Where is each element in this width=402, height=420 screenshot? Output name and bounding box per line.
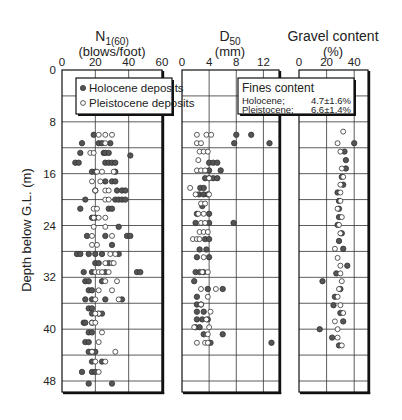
data-point [205, 230, 210, 235]
data-point [203, 168, 208, 173]
data-point [194, 340, 199, 345]
data-point [193, 220, 198, 225]
data-point [115, 279, 120, 284]
data-point [96, 369, 101, 374]
x-tick-label: 60 [156, 56, 169, 68]
data-point [79, 369, 84, 374]
data-point [335, 327, 340, 332]
fines-pleistocene-value: 6.6±1.4% [311, 104, 352, 115]
chart-canvas: N1(60) (blows/foot) D50 (mm) Gravel cont… [0, 0, 402, 420]
data-point [89, 288, 94, 293]
data-point [335, 255, 340, 260]
data-point [197, 237, 202, 242]
x-tick-label: 0 [59, 56, 65, 68]
data-point [123, 188, 128, 193]
data-point [338, 182, 343, 187]
data-point [207, 192, 212, 197]
data-point [337, 222, 342, 227]
panel-frame [62, 70, 162, 392]
legend-holocene-label: Holocene deposits [89, 82, 184, 94]
data-point [76, 160, 81, 165]
data-point [96, 215, 101, 220]
panel-shadow-bottom [300, 392, 370, 394]
data-point [138, 269, 143, 274]
legend-pleistocene-label: Pleistocene deposits [89, 97, 195, 109]
data-point [86, 251, 91, 256]
data-point [116, 297, 121, 302]
data-point [201, 255, 206, 260]
x-tick-label: 20 [89, 56, 102, 68]
data-point [109, 242, 114, 247]
data-point [96, 288, 101, 293]
data-point [339, 343, 344, 348]
data-point [96, 260, 101, 265]
data-point [194, 294, 199, 299]
x-tick-label: 0 [296, 56, 302, 68]
data-point [339, 166, 344, 171]
data-point [79, 141, 84, 146]
data-point [89, 330, 94, 335]
data-point [352, 141, 357, 146]
data-point [78, 150, 83, 155]
data-point [188, 185, 193, 190]
x-tick-label: 0 [179, 56, 185, 68]
fines-pleistocene-label: Pleistocene; [242, 104, 294, 115]
data-point [201, 185, 206, 190]
data-point [106, 188, 111, 193]
data-point [110, 288, 115, 293]
data-point [100, 169, 105, 174]
depth-tick-label: 32 [43, 271, 56, 283]
data-point [332, 319, 337, 324]
data-point [335, 335, 340, 340]
data-point [108, 141, 113, 146]
panel-unit-d50: (mm) [215, 44, 245, 59]
x-tick-label: 4 [206, 56, 213, 68]
data-point [95, 169, 100, 174]
panel-title-gravel: Gravel content [287, 28, 378, 44]
data-point [197, 325, 202, 330]
depth-tick-label: 0 [50, 64, 56, 76]
data-point [93, 251, 98, 256]
data-point [103, 261, 108, 266]
data-point [96, 132, 101, 137]
data-point [93, 311, 98, 316]
data-point [116, 224, 121, 229]
data-point [193, 192, 198, 197]
data-point [205, 149, 210, 154]
data-point [123, 197, 128, 202]
data-point [110, 233, 115, 238]
data-point [204, 247, 209, 252]
data-point [338, 231, 343, 236]
data-point [218, 168, 223, 173]
data-point [108, 252, 113, 257]
data-point [341, 311, 346, 316]
data-point [91, 215, 96, 220]
data-point [83, 297, 88, 302]
data-point [90, 179, 95, 184]
data-point [111, 261, 116, 266]
data-point [110, 132, 115, 137]
data-point [103, 132, 108, 137]
data-point [338, 149, 343, 154]
data-point [336, 238, 341, 243]
y-axis-label: Depth below G.L. (m) [19, 168, 34, 292]
data-point [192, 279, 197, 284]
depth-tick-labels: 081624324048 [43, 64, 56, 387]
data-point [341, 174, 346, 179]
legend-holocene-marker [80, 85, 85, 90]
data-point [320, 279, 325, 284]
data-point [96, 340, 101, 345]
data-point [209, 132, 214, 137]
data-point [90, 349, 95, 354]
data-point [205, 332, 210, 337]
panel-shadow-bottom [183, 392, 281, 394]
data-point [100, 270, 105, 275]
data-point [317, 327, 322, 332]
legend-pleistocene-marker [81, 101, 86, 106]
data-point [345, 263, 350, 268]
data-point [113, 160, 118, 165]
data-point [103, 141, 108, 146]
data-point [197, 247, 202, 252]
data-point [215, 160, 220, 165]
data-point [337, 287, 342, 292]
